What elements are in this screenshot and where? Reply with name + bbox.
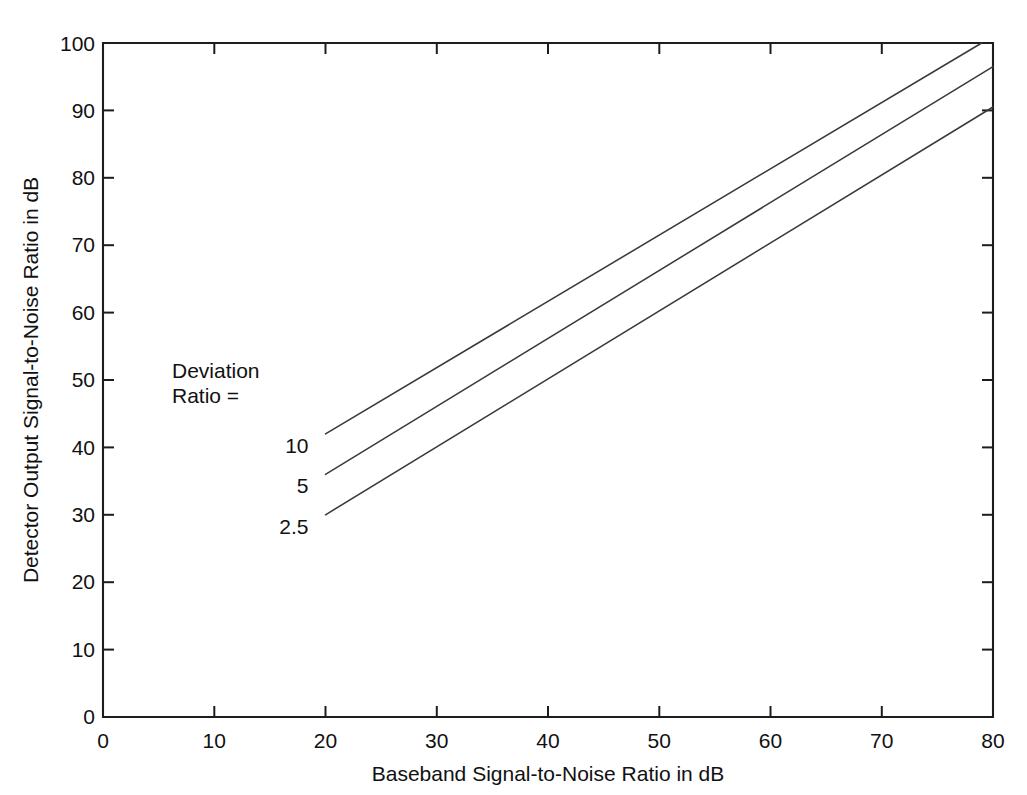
x-tick-label: 80 — [981, 729, 1004, 752]
data-series-group — [326, 43, 994, 515]
y-tick-label: 70 — [72, 233, 95, 256]
series-label-group: 1052.5 — [279, 434, 308, 538]
y-tick-label: 30 — [72, 503, 95, 526]
x-tick-label: 70 — [870, 729, 893, 752]
y-tick-label: 90 — [72, 99, 95, 122]
y-tick-label: 60 — [72, 301, 95, 324]
annotation-line-2: Ratio = — [172, 384, 239, 407]
y-tick-label: 40 — [72, 436, 95, 459]
x-axis-title: Baseband Signal-to-Noise Ratio in dB — [372, 762, 725, 785]
series-label-10: 10 — [285, 434, 308, 457]
x-tick-label: 40 — [536, 729, 559, 752]
x-tick-label: 20 — [314, 729, 337, 752]
series-label-2.5: 2.5 — [279, 515, 308, 538]
data-line-10 — [326, 43, 982, 434]
y-axis-title: Detector Output Signal-to-Noise Ratio in… — [19, 177, 42, 583]
y-tick-labels: 0 10 20 30 40 50 60 70 80 90 100 — [60, 32, 95, 728]
x-tick-label: 10 — [203, 729, 226, 752]
y-tick-label: 100 — [60, 32, 95, 55]
y-tick-label: 10 — [72, 638, 95, 661]
deviation-ratio-annotation: Deviation Ratio = — [172, 359, 260, 407]
y-tick-label: 20 — [72, 570, 95, 593]
y-tick-label: 50 — [72, 368, 95, 391]
x-tick-label: 30 — [425, 729, 448, 752]
data-line-2.5 — [326, 107, 994, 515]
x-tick-label: 50 — [648, 729, 671, 752]
y-tick-label: 80 — [72, 166, 95, 189]
x-tick-labels: 0 10 20 30 40 50 60 70 80 — [97, 729, 1005, 752]
series-label-5: 5 — [297, 474, 309, 497]
chart-svg: 0 10 20 30 40 50 60 70 80 90 100 0 10 20… — [0, 0, 1027, 795]
y-tick-label: 0 — [83, 705, 95, 728]
x-tick-label: 0 — [97, 729, 109, 752]
data-line-5 — [326, 67, 994, 475]
annotation-line-1: Deviation — [172, 359, 260, 382]
chart-figure: 0 10 20 30 40 50 60 70 80 90 100 0 10 20… — [0, 0, 1027, 795]
x-tick-label: 60 — [759, 729, 782, 752]
